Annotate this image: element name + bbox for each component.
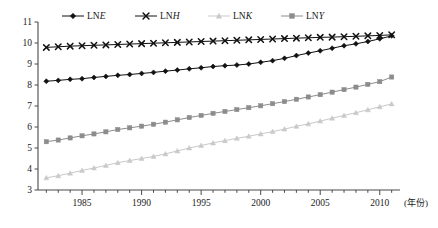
series-lnk bbox=[44, 101, 394, 179]
marker-square bbox=[330, 90, 334, 94]
marker-diamond bbox=[199, 65, 204, 70]
y-tick-label: 4 bbox=[27, 164, 32, 174]
marker-square bbox=[80, 134, 84, 138]
legend-item-lnh: LNH bbox=[135, 11, 181, 21]
marker-diamond bbox=[163, 69, 168, 74]
marker-square bbox=[104, 130, 108, 134]
marker-square bbox=[68, 136, 72, 140]
marker-diamond bbox=[306, 51, 311, 56]
marker-diamond bbox=[222, 63, 227, 68]
marker-square bbox=[128, 126, 132, 130]
chart-series bbox=[44, 32, 395, 180]
marker-diamond bbox=[187, 66, 192, 71]
marker-diamond bbox=[342, 43, 347, 48]
marker-square bbox=[223, 109, 227, 113]
legend-label: LNK bbox=[233, 11, 253, 21]
marker-diamond bbox=[330, 46, 335, 51]
marker-square bbox=[175, 118, 179, 122]
marker-square bbox=[318, 93, 322, 97]
marker-diamond bbox=[270, 58, 275, 63]
marker-square bbox=[366, 82, 370, 86]
y-axis-ticks: 34567891011 bbox=[23, 17, 39, 195]
x-tick-label: 2010 bbox=[370, 198, 389, 208]
marker-square bbox=[151, 122, 155, 126]
marker-square bbox=[354, 85, 358, 89]
legend-label: LNH bbox=[160, 11, 181, 21]
y-tick-label: 8 bbox=[27, 80, 32, 90]
series-lny bbox=[44, 75, 394, 144]
marker-diamond bbox=[294, 53, 299, 58]
marker-triangle bbox=[389, 101, 394, 106]
marker-diamond bbox=[91, 75, 96, 80]
marker-square bbox=[163, 120, 167, 124]
series-line bbox=[46, 36, 391, 81]
marker-diamond bbox=[44, 79, 49, 84]
marker-diamond bbox=[56, 78, 61, 83]
marker-square bbox=[306, 95, 310, 99]
marker-square bbox=[378, 80, 382, 84]
series-line bbox=[46, 35, 391, 48]
marker-diamond bbox=[211, 64, 216, 69]
marker-diamond bbox=[68, 77, 73, 82]
marker-square bbox=[56, 138, 60, 142]
x-axis-unit-label: (年份) bbox=[404, 197, 428, 208]
marker-diamond bbox=[318, 48, 323, 53]
marker-diamond bbox=[246, 62, 251, 67]
marker-square bbox=[342, 87, 346, 91]
marker-diamond bbox=[115, 73, 120, 78]
series-lnh bbox=[44, 32, 395, 50]
y-tick-label: 5 bbox=[27, 143, 32, 153]
series-line bbox=[46, 104, 391, 178]
legend-label: LNY bbox=[306, 11, 326, 21]
marker-square bbox=[390, 75, 394, 79]
x-tick-label: 1995 bbox=[192, 198, 211, 208]
x-tick-label: 2005 bbox=[311, 198, 330, 208]
chart-legend: LNELNHLNKLNY bbox=[62, 11, 326, 21]
x-tick-label: 2000 bbox=[251, 198, 270, 208]
marker-square bbox=[259, 104, 263, 108]
marker-square bbox=[294, 97, 298, 101]
marker-square bbox=[235, 107, 239, 111]
y-tick-label: 10 bbox=[23, 38, 33, 48]
series-line bbox=[46, 77, 391, 142]
legend-item-lne: LNE bbox=[62, 11, 106, 21]
marker-square bbox=[290, 14, 295, 19]
marker-diamond bbox=[175, 68, 180, 73]
marker-square bbox=[44, 140, 48, 144]
legend-item-lny: LNY bbox=[281, 11, 326, 21]
marker-square bbox=[199, 113, 203, 117]
marker-square bbox=[247, 106, 251, 110]
x-tick-label: 1985 bbox=[73, 198, 92, 208]
marker-diamond bbox=[70, 13, 75, 18]
line-chart: LNELNHLNKLNY 34567891011 198519901995200… bbox=[0, 0, 438, 228]
marker-diamond bbox=[282, 56, 287, 61]
marker-diamond bbox=[127, 72, 132, 77]
marker-diamond bbox=[151, 70, 156, 75]
legend-label: LNE bbox=[87, 11, 106, 21]
marker-square bbox=[211, 111, 215, 115]
marker-diamond bbox=[80, 76, 85, 81]
marker-diamond bbox=[353, 41, 358, 46]
marker-diamond bbox=[234, 63, 239, 68]
x-axis-ticks: 198519901995200020052010 bbox=[46, 190, 391, 208]
y-tick-label: 7 bbox=[27, 101, 32, 111]
marker-diamond bbox=[365, 39, 370, 44]
y-tick-label: 9 bbox=[27, 59, 32, 69]
chart-container: LNELNHLNKLNY 34567891011 198519901995200… bbox=[0, 0, 438, 228]
y-tick-label: 6 bbox=[27, 122, 32, 132]
marker-square bbox=[270, 102, 274, 106]
marker-diamond bbox=[139, 71, 144, 76]
x-tick-label: 1990 bbox=[132, 198, 151, 208]
y-tick-label: 3 bbox=[27, 185, 32, 195]
marker-diamond bbox=[103, 74, 108, 79]
marker-square bbox=[282, 99, 286, 103]
x-axis-unit-text: (年份) bbox=[404, 197, 428, 208]
marker-square bbox=[92, 132, 96, 136]
marker-square bbox=[187, 115, 191, 119]
marker-square bbox=[139, 124, 143, 128]
y-tick-label: 11 bbox=[23, 17, 32, 27]
marker-square bbox=[116, 127, 120, 131]
marker-diamond bbox=[258, 60, 263, 65]
legend-item-lnk: LNK bbox=[208, 11, 253, 21]
